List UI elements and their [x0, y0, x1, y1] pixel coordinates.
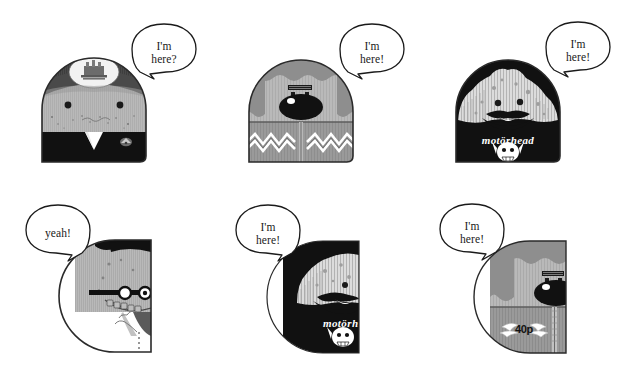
- speech-bubble-shape-1: [128, 22, 200, 84]
- speech-bubble-shape-4: [22, 203, 94, 263]
- character-cell-3: motörhead: [418, 0, 625, 185]
- speech-bubble-4: yeah!: [22, 203, 94, 263]
- speech-bubble-2: I'm here!: [336, 22, 408, 84]
- speech-bubble-shape-2: [336, 22, 408, 84]
- character-cell-1: I'm here?: [0, 0, 210, 185]
- speech-bubble-shape-6: [436, 202, 508, 264]
- speech-bubble-shape-5: [232, 203, 304, 265]
- speech-bubble-3: I'm here!: [542, 20, 614, 82]
- forty-p-logo-text-6: 40p: [515, 323, 534, 335]
- illustration-canvas: I'm here?: [0, 0, 625, 367]
- speech-bubble-6: I'm here!: [436, 202, 508, 264]
- speech-bubble-1: I'm here?: [128, 22, 200, 84]
- character-cell-4: yeah!: [0, 185, 210, 367]
- speech-bubble-shape-3: [542, 20, 614, 82]
- motorhead-logo-text-5: motörh: [323, 317, 358, 329]
- character-cell-6: 40p I'm here!: [418, 185, 625, 367]
- character-cell-2: I'm here!: [210, 0, 420, 185]
- character-cell-5: motörh: [210, 185, 420, 367]
- speech-bubble-5: I'm here!: [232, 203, 304, 265]
